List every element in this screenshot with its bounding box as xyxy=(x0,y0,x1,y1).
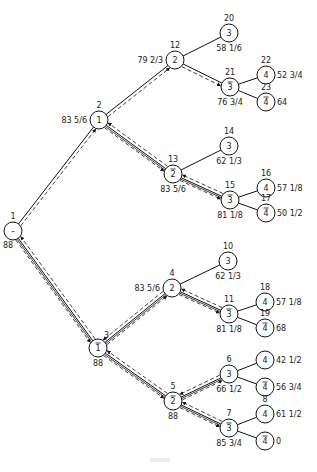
node-variable: 2 xyxy=(169,284,174,293)
node-bound-value: 81 1/8 xyxy=(217,211,243,220)
node-number: 11 xyxy=(224,295,234,304)
tree-node-n4: 2483 5/6 xyxy=(134,269,181,297)
node-number: 13 xyxy=(168,155,178,164)
node-bound-value: 0 xyxy=(276,437,281,446)
tree-node-n2: 1283 5/6 xyxy=(61,101,108,129)
node-number: 18 xyxy=(260,283,270,292)
node-number: 7 xyxy=(226,409,231,418)
node-bound-value: 68 xyxy=(276,324,286,333)
node-number: 12 xyxy=(170,41,180,50)
node-bound-value: 52 3/4 xyxy=(277,71,303,80)
node-bound-value: 58 1/6 xyxy=(216,44,242,53)
tree-node-n6: 3666 1/2 xyxy=(216,355,242,394)
tree-node-n3: 1388 xyxy=(89,331,109,368)
tree-node-n19: 41968 xyxy=(256,309,286,337)
node-bound-value: 62 1/3 xyxy=(215,272,241,281)
edge-n6-n6a xyxy=(237,363,256,370)
node-bound-value: 83 5/6 xyxy=(134,284,160,293)
node-variable: 3 xyxy=(226,370,231,379)
node-variable: 4 xyxy=(262,298,267,307)
node-bound-value: 64 xyxy=(277,98,287,107)
node-variable: 1 xyxy=(96,116,101,125)
node-variable: 2 xyxy=(172,56,177,65)
node-bound-value: 79 2/3 xyxy=(137,56,163,65)
node-variable: 3 xyxy=(226,142,231,151)
tree-node-n22: 42252 3/4 xyxy=(257,56,303,84)
tree-node-n1: –188 xyxy=(3,212,22,250)
edge-n13-n15 xyxy=(180,175,223,199)
node-bound-value: 88 xyxy=(93,359,103,368)
node-bound-value: 83 5/6 xyxy=(160,185,186,194)
search-tree-diagram: –1881283 5/621279 2/332058 1/632176 3/44… xyxy=(0,0,317,472)
node-number: 5 xyxy=(170,382,175,391)
edge-n2-n12 xyxy=(106,66,170,117)
node-number: 10 xyxy=(223,242,233,251)
node-number: 3 xyxy=(104,331,109,340)
edge-n7-n9 xyxy=(237,431,256,438)
tree-node-n5: 2588 xyxy=(164,382,182,421)
edge-n12-n21 xyxy=(182,64,222,86)
node-bound-value: 57 1/8 xyxy=(276,298,302,307)
edge-n3-n4 xyxy=(103,291,167,344)
edge-n6-n6b xyxy=(237,377,256,384)
edge-n11-n19 xyxy=(237,317,256,324)
node-variable: 2 xyxy=(170,170,175,179)
node-variable: 4 xyxy=(262,437,267,446)
tree-node-n16: 41657 1/8 xyxy=(257,169,303,197)
edge-n7-n8 xyxy=(237,417,256,424)
node-bound-value: 85 3/4 xyxy=(216,439,242,448)
edge-n21-n22 xyxy=(239,78,258,84)
node-bound-value: 61 1/2 xyxy=(276,410,302,419)
node-bound-value: 83 5/6 xyxy=(61,116,87,125)
node-number: 20 xyxy=(224,14,234,23)
node-number: 19 xyxy=(260,309,270,318)
tree-node-n12: 21279 2/3 xyxy=(137,41,184,69)
tree-node-n18: 41857 1/8 xyxy=(256,283,302,311)
node-bound-value: 42 1/2 xyxy=(276,356,302,365)
tree-node-n8: 4861 1/2 xyxy=(256,395,302,423)
tree-node-n11: 31181 1/8 xyxy=(216,295,242,334)
node-number: 23 xyxy=(261,83,271,92)
tree-node-n17: 41750 1/2 xyxy=(257,194,303,222)
node-variable: 3 xyxy=(225,257,230,266)
node-variable: 3 xyxy=(226,310,231,319)
edge-n15-n16 xyxy=(239,191,258,197)
tree-node-n7: 3785 3/4 xyxy=(216,409,242,448)
node-variable: 3 xyxy=(226,29,231,38)
node-variable: 4 xyxy=(263,71,268,80)
node-bound-value: 62 1/3 xyxy=(216,157,242,166)
node-bound-value: 50 1/2 xyxy=(277,209,303,218)
tree-node-n14: 31462 1/3 xyxy=(216,127,242,166)
node-bound-value: 56 3/4 xyxy=(276,383,302,392)
node-variable: 4 xyxy=(262,324,267,333)
tree-node-n6a: 442 1/2 xyxy=(256,351,302,369)
node-number: 22 xyxy=(261,56,271,65)
node-variable: 3 xyxy=(226,424,231,433)
edge-n11-n18 xyxy=(238,305,257,311)
edge-n5-n7 xyxy=(180,402,222,427)
tree-node-n9: 40 xyxy=(256,432,281,450)
node-bound-value: 88 xyxy=(3,241,13,250)
node-variable: 4 xyxy=(263,209,268,218)
nodes-layer: –1881283 5/621279 2/332058 1/632176 3/44… xyxy=(3,14,303,450)
node-bound-value: 88 xyxy=(168,412,178,421)
edge-n13-n14 xyxy=(181,150,221,170)
node-bound-value: 57 1/8 xyxy=(277,184,303,193)
node-bound-value: 81 1/8 xyxy=(216,325,242,334)
node-variable: 4 xyxy=(263,98,268,107)
tree-node-n10: 31062 1/3 xyxy=(215,242,241,281)
edge-n4-n11 xyxy=(179,289,222,313)
node-number: 4 xyxy=(169,269,174,278)
tree-node-n21: 32176 3/4 xyxy=(217,68,243,107)
node-bound-value: 76 3/4 xyxy=(217,98,243,107)
node-variable: 4 xyxy=(263,184,268,193)
edge-n4-n10 xyxy=(180,265,220,284)
node-number: 8 xyxy=(262,395,267,404)
edge-n1-n3 xyxy=(16,237,95,343)
node-number: 6 xyxy=(226,355,231,364)
tree-node-n23: 42364 xyxy=(257,83,287,111)
node-variable: 4 xyxy=(262,383,267,392)
node-number: 14 xyxy=(224,127,234,136)
tree-node-n13: 21383 5/6 xyxy=(160,155,186,194)
tree-node-n15: 31581 1/8 xyxy=(217,181,243,220)
